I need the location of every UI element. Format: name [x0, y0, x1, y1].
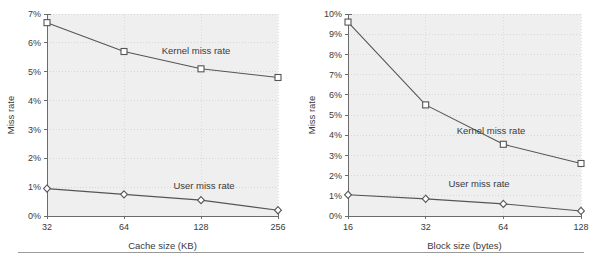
ytick-label-10%: 10% — [324, 9, 342, 19]
marker-kernel-miss-rate-32 — [44, 20, 50, 26]
ytick-label-5%: 5% — [28, 67, 41, 77]
marker-kernel-miss-rate-128 — [578, 160, 584, 166]
ytick-label-3%: 3% — [329, 151, 342, 161]
block-size-miss-rate-chart: 0%1%2%3%4%5%6%7%8%9%10%163264128Kernel m… — [301, 0, 602, 263]
cache-size-miss-rate-chart: 0%1%2%3%4%5%6%7%3264128256Kernel miss ra… — [0, 0, 301, 263]
marker-kernel-miss-rate-32 — [423, 102, 429, 108]
series-annotation-user-miss-rate: User miss rate — [448, 178, 509, 189]
xtick-label-128: 128 — [573, 222, 588, 232]
footer-divider-rule — [18, 252, 584, 253]
xtick-label-32: 32 — [421, 222, 431, 232]
chart-panel-cache-size: 0%1%2%3%4%5%6%7%3264128256Kernel miss ra… — [0, 0, 301, 263]
ytick-label-4%: 4% — [329, 130, 342, 140]
ytick-label-6%: 6% — [329, 90, 342, 100]
y-axis-title: Miss rate — [306, 96, 317, 135]
ytick-label-6%: 6% — [28, 38, 41, 48]
xtick-label-32: 32 — [42, 222, 52, 232]
y-axis-title: Miss rate — [5, 96, 16, 135]
ytick-label-7%: 7% — [329, 70, 342, 80]
ytick-label-7%: 7% — [28, 9, 41, 19]
ytick-label-0%: 0% — [28, 211, 41, 221]
xtick-label-16: 16 — [343, 222, 353, 232]
ytick-label-9%: 9% — [329, 29, 342, 39]
series-annotation-kernel-miss-rate: Kernel miss rate — [162, 45, 231, 56]
marker-kernel-miss-rate-64 — [121, 49, 127, 55]
marker-kernel-miss-rate-256 — [275, 74, 281, 80]
ytick-label-2%: 2% — [28, 153, 41, 163]
marker-kernel-miss-rate-16 — [345, 19, 351, 25]
ytick-label-1%: 1% — [28, 182, 41, 192]
ytick-label-1%: 1% — [329, 191, 342, 201]
marker-kernel-miss-rate-128 — [198, 66, 204, 72]
ytick-label-0%: 0% — [329, 211, 342, 221]
ytick-label-2%: 2% — [329, 171, 342, 181]
x-axis-title: Cache size (KB) — [128, 240, 197, 251]
series-annotation-kernel-miss-rate: Kernel miss rate — [457, 125, 526, 136]
marker-kernel-miss-rate-64 — [500, 141, 506, 147]
ytick-label-8%: 8% — [329, 50, 342, 60]
ytick-label-3%: 3% — [28, 125, 41, 135]
xtick-label-256: 256 — [270, 222, 285, 232]
chart-panel-block-size: 0%1%2%3%4%5%6%7%8%9%10%163264128Kernel m… — [301, 0, 602, 263]
miss-rate-figure: 0%1%2%3%4%5%6%7%3264128256Kernel miss ra… — [0, 0, 602, 263]
ytick-label-5%: 5% — [329, 110, 342, 120]
ytick-label-4%: 4% — [28, 96, 41, 106]
xtick-label-64: 64 — [498, 222, 508, 232]
xtick-label-128: 128 — [193, 222, 208, 232]
xtick-label-64: 64 — [119, 222, 129, 232]
x-axis-title: Block size (bytes) — [427, 240, 501, 251]
series-annotation-user-miss-rate: User miss rate — [173, 180, 234, 191]
